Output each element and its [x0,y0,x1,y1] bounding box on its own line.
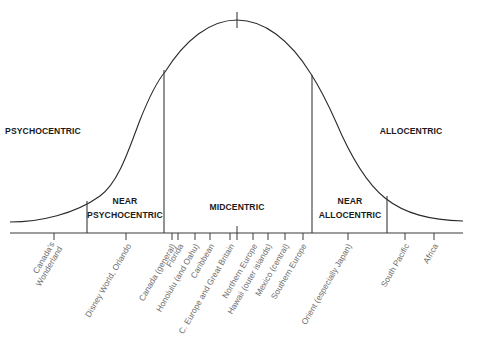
label-allocentric-text: ALLOCENTRIC [380,126,443,136]
label-near-psychocentric: NEAR PSYCHOCENTRIC [86,194,164,222]
label-psychocentric: PSYCHOCENTRIC [4,124,82,138]
label-midcentric-text: MIDCENTRIC [210,202,265,212]
bell-curve [10,20,463,222]
label-midcentric: MIDCENTRIC [200,200,274,214]
label-near-allocentric-line2: ALLOCENTRIC [315,208,385,222]
label-psychocentric-text: PSYCHOCENTRIC [5,126,81,136]
label-allocentric: ALLOCENTRIC [374,124,448,138]
psychographic-bell-curve-diagram: PSYCHOCENTRIC NEAR PSYCHOCENTRIC MIDCENT… [0,0,478,344]
label-near-psychocentric-line1: NEAR [86,194,164,208]
label-near-allocentric-line1: NEAR [315,194,385,208]
label-near-allocentric: NEAR ALLOCENTRIC [315,194,385,222]
destination-ticks [54,233,434,240]
label-near-psychocentric-line2: PSYCHOCENTRIC [86,208,164,222]
